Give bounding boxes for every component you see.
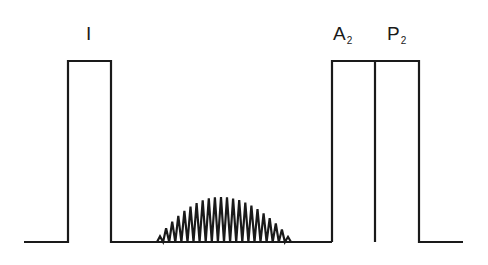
label-p-subscript: 2: [401, 35, 407, 46]
label-a-subscript: 2: [347, 35, 353, 46]
label-i-text: I: [86, 23, 91, 44]
waveform-canvas: [0, 0, 488, 265]
label-a2: A2: [333, 24, 352, 46]
label-p-text: P: [387, 23, 400, 44]
phonocardiogram-diagram: I A2 P2: [0, 0, 488, 265]
second-heart-sound-trace: [332, 61, 463, 242]
systolic-murmur-trace: [157, 197, 291, 242]
label-p2: P2: [387, 24, 406, 46]
label-a-text: A: [333, 23, 346, 44]
label-first-heart-sound: I: [86, 24, 91, 43]
first-heart-sound-trace: [24, 61, 332, 242]
